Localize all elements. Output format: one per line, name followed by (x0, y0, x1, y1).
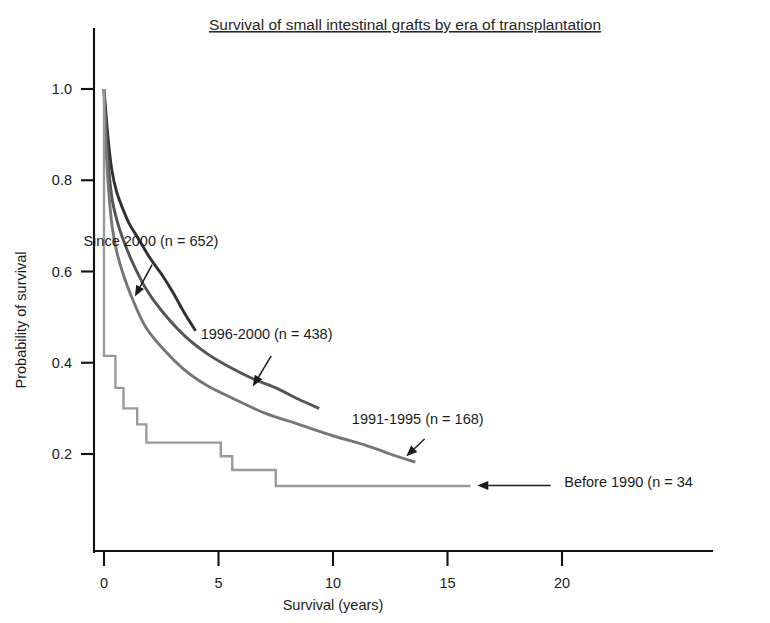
annotation-arrow-head (477, 481, 488, 490)
y-axis-title: Probability of survival (13, 252, 29, 389)
annotation-arrow-line (414, 439, 424, 449)
x-tick-label: 15 (439, 575, 455, 591)
x-tick-label: 5 (214, 575, 222, 591)
x-tick-label: 10 (325, 575, 341, 591)
x-tick-label: 0 (100, 575, 108, 591)
series-annotation-label: Before 1990 (n = 34 (564, 474, 693, 490)
y-tick-label: 0.8 (52, 172, 72, 188)
x-axis-title: Survival (years) (283, 597, 384, 613)
annotation-arrow-line (140, 265, 152, 287)
survival-chart-figure: Survival of small intestinal grafts by e… (0, 0, 770, 623)
series-annotation-label: 1991-1995 (n = 168) (352, 411, 484, 427)
y-tick-label: 0.2 (52, 446, 72, 462)
series-annotation-label: 1996-2000 (n = 438) (201, 326, 333, 342)
x-tick-label: 20 (554, 575, 570, 591)
y-tick-label: 1.0 (52, 81, 72, 97)
series-annotation-label: Since 2000 (n = 652) (83, 233, 218, 249)
y-axis-ticks: 0.20.40.60.81.0 (52, 81, 94, 462)
x-axis-ticks: 05101520 (100, 551, 570, 591)
annotation-arrow-line (259, 356, 272, 377)
y-tick-label: 0.4 (52, 355, 72, 371)
y-tick-label: 0.6 (52, 264, 72, 280)
chart-title: Survival of small intestinal grafts by e… (209, 16, 601, 33)
series-curve-3 (104, 89, 415, 462)
chart-canvas: Survival of small intestinal grafts by e… (0, 0, 770, 623)
annotation-arrow-head (135, 285, 144, 297)
